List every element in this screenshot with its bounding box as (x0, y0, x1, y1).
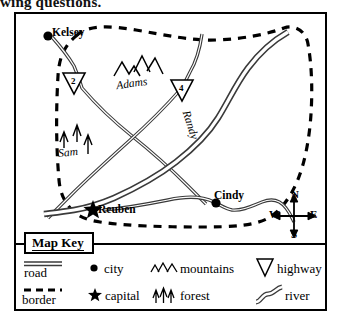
road-network (48, 34, 294, 222)
legend-item-highway: highway (254, 254, 334, 281)
compass-rose: N S E W (269, 190, 321, 242)
mountains-symbol (150, 254, 178, 281)
map-frame: Kelsey Reuben Cindy Adams Sam Randy 2 4 … (14, 12, 327, 311)
legend-label-forest: forest (180, 288, 210, 304)
legend-item-city: city (86, 254, 148, 281)
river-symbol (254, 281, 284, 308)
city-label-cindy: Cindy (214, 189, 244, 201)
page-top-text: wing questions. (0, 0, 339, 10)
highway-shield-2-number: 2 (71, 76, 76, 86)
mountains-adams-icon (114, 56, 163, 76)
compass-east-label: E (310, 208, 317, 220)
compass-south-label: S (291, 228, 297, 240)
city-dot-symbol (86, 254, 102, 281)
compass-west-label: W (269, 208, 280, 220)
map-key-legend: road city mountains (22, 254, 322, 308)
map-drawing-area: Kelsey Reuben Cindy Adams Sam Randy 2 4 … (16, 14, 325, 243)
legend-item-forest: forest (150, 281, 254, 308)
highway-shield-4-number: 4 (179, 83, 184, 93)
city-label-kelsey: Kelsey (52, 26, 85, 38)
map-key-title-tab: Map Key (24, 232, 94, 254)
forest-symbol (150, 281, 178, 308)
legend-item-river: river (254, 281, 334, 308)
legend-label-highway: highway (277, 261, 322, 277)
legend-row-1: road city mountains (22, 254, 322, 281)
legend-label-road: road (24, 265, 47, 281)
capital-star-symbol (86, 281, 104, 308)
legend-item-mountains: mountains (150, 254, 254, 281)
highway-shield-symbol (254, 254, 276, 281)
map-key-title: Map Key (32, 236, 84, 251)
legend-label-capital: capital (105, 288, 140, 304)
legend-item-border: border (22, 281, 82, 308)
forest-label-sam: Sam (57, 145, 78, 159)
compass-north-label: N (291, 188, 299, 200)
legend-label-border: border (22, 292, 56, 308)
legend-row-2: border capital forest (22, 281, 322, 308)
legend-label-city: city (104, 261, 124, 277)
legend-item-road: road (22, 254, 82, 281)
legend-item-capital: capital (86, 281, 156, 308)
city-label-reuben: Reuben (98, 203, 136, 215)
legend-label-mountains: mountains (180, 261, 234, 277)
legend-label-river: river (285, 288, 310, 304)
